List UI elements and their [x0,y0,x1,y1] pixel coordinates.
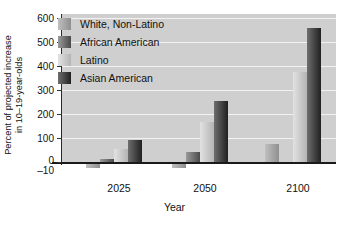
y-tickmark-0 [57,162,61,163]
legend-item-white-non-latino: White, Non-Latino [58,16,218,32]
y-tick-label-neg10: –10 [20,165,54,176]
x-axis-title: Year [0,201,349,213]
bar-2050-latino [200,122,214,162]
y-axis-title-line-1: Percent of projected increase [3,35,14,155]
y-tick-label-400: 400 [20,61,54,72]
bar-chart: Percent of projected increase in 10–19-y… [0,0,349,226]
y-tickmark-300 [57,90,61,91]
y-tick-label-600: 600 [20,13,54,24]
bar-2100-asian-american [307,28,321,162]
x-tick-label-2100: 2100 [276,182,320,194]
legend-swatch-white-non-latino [58,18,71,30]
legend-swatch-african-american [58,36,71,48]
y-tick-label-500: 500 [20,37,54,48]
legend-label-african-american: African American [80,36,159,48]
legend-swatch-asian-american [58,72,71,84]
y-tick-label-100: 100 [20,133,54,144]
bar-2050-african-american [186,152,200,162]
legend: White, Non-Latino African American Latin… [58,16,218,88]
bar-2050-white-non-latino-negative [172,164,186,168]
bar-2025-asian-american [128,140,142,162]
bar-2025-latino [114,149,128,162]
y-tick-label-300: 300 [20,85,54,96]
zero-baseline [52,162,336,164]
y-tick-label-200: 200 [20,109,54,120]
x-tick-label-2025: 2025 [97,182,141,194]
bar-2025-white-non-latino-negative [86,164,100,168]
legend-item-asian-american: Asian American [58,70,218,86]
legend-item-african-american: African American [58,34,218,50]
y-tickmark-100 [57,138,61,139]
bar-2100-white-non-latino [265,144,279,162]
legend-label-latino: Latino [80,54,109,66]
legend-label-white-non-latino: White, Non-Latino [80,18,164,30]
x-tick-label-2050: 2050 [183,182,227,194]
bar-2050-asian-american [214,101,228,162]
bar-2100-latino [293,72,307,162]
legend-swatch-latino [58,54,71,66]
y-tickmark-200 [57,114,61,115]
legend-label-asian-american: Asian American [80,72,153,84]
legend-item-latino: Latino [58,52,218,68]
